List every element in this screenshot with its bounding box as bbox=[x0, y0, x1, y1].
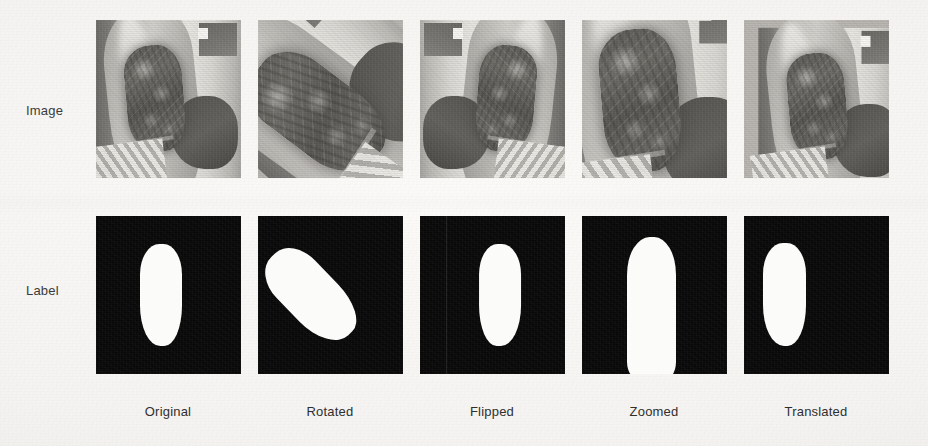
photo-scene bbox=[759, 28, 890, 178]
photo-striped-fabric bbox=[493, 139, 565, 178]
photo-striped-fabric bbox=[96, 139, 168, 178]
photo-white-tag bbox=[860, 36, 870, 47]
photo-translated bbox=[744, 20, 889, 178]
panel-image-zoomed bbox=[582, 20, 727, 178]
mask-lesion-region bbox=[258, 237, 368, 353]
mask-lesion-region bbox=[627, 237, 676, 374]
column-label-original: Original bbox=[145, 404, 191, 419]
panel-label-original bbox=[96, 216, 241, 374]
photo-scene bbox=[420, 20, 565, 178]
mask-original bbox=[96, 216, 241, 374]
photo-scene bbox=[258, 20, 403, 178]
photo-scene bbox=[582, 20, 727, 178]
panel-image-original bbox=[96, 20, 241, 178]
mask-flipped bbox=[420, 216, 565, 374]
photo-dark-card bbox=[699, 20, 727, 44]
panel-image-rotated bbox=[258, 20, 403, 178]
photo-white-tag bbox=[453, 28, 463, 39]
photo-original bbox=[96, 20, 241, 178]
panel-label-rotated bbox=[258, 216, 403, 374]
mask-rotated bbox=[258, 216, 403, 374]
photo-rotated bbox=[258, 20, 403, 178]
photo-white-tag bbox=[198, 28, 208, 39]
column-label-flipped: Flipped bbox=[470, 404, 514, 419]
panel-image-translated bbox=[744, 20, 889, 178]
row-label-label: Label bbox=[26, 283, 59, 298]
photo-scene bbox=[96, 20, 241, 178]
panel-label-flipped bbox=[420, 216, 565, 374]
mask-translated bbox=[744, 216, 889, 374]
column-label-rotated: Rotated bbox=[307, 404, 354, 419]
mask-zoomed bbox=[582, 216, 727, 374]
photo-zoomed bbox=[582, 20, 727, 178]
panel-label-translated bbox=[744, 216, 889, 374]
mask-lesion-region bbox=[140, 244, 182, 345]
augmentation-figure: Image Label bbox=[0, 0, 928, 446]
mask-lesion-region bbox=[479, 244, 521, 345]
column-label-translated: Translated bbox=[785, 404, 848, 419]
column-label-zoomed: Zoomed bbox=[630, 404, 679, 419]
row-label-image: Image bbox=[26, 103, 63, 118]
photo-white-tag bbox=[697, 20, 711, 21]
photo-flipped bbox=[420, 20, 565, 178]
panel-label-zoomed bbox=[582, 216, 727, 374]
panel-image-flipped bbox=[420, 20, 565, 178]
mask-lesion-region bbox=[763, 243, 807, 346]
mask-seam-line bbox=[446, 216, 447, 374]
